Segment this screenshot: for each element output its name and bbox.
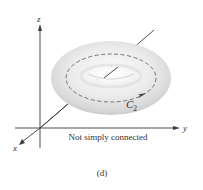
torus-surface (51, 41, 171, 115)
torus-diagram: z y x C2 Not simply connected (d) (0, 0, 203, 190)
z-axis-label: z (36, 14, 41, 24)
panel-label: (d) (97, 168, 108, 178)
y-axis-label: y (182, 123, 187, 133)
x-axis (22, 128, 40, 142)
x-axis-label: x (12, 143, 17, 153)
diagonal-axis-line-front (40, 104, 68, 128)
y-axis-arrow-icon (173, 126, 180, 130)
figure-caption: Not simply connected (69, 132, 148, 142)
z-axis-arrow-icon (38, 24, 42, 31)
